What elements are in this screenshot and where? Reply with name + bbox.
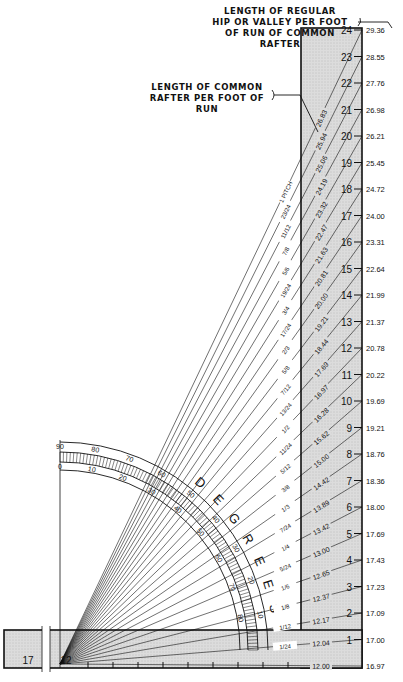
rise-label: 12 (341, 343, 353, 354)
hip-valley-value: 22.64 (366, 265, 385, 274)
hip-valley-callout: LENGTH OF REGULAR HIP OR VALLEY PER FOOT… (205, 6, 355, 50)
pitch-label: 1/24 (279, 643, 292, 650)
pitch-label: 23/24 (280, 203, 292, 220)
hip-valley-value: 19.21 (366, 424, 385, 433)
rise-label: 18 (341, 184, 353, 195)
rise-label: 10 (341, 396, 353, 407)
hip-valley-value: 21.99 (366, 291, 385, 300)
base-bar (4, 630, 362, 668)
rise-label: 17 (341, 211, 353, 222)
hip-valley-value: 26.98 (366, 106, 385, 115)
hip-valley-value: 28.55 (366, 53, 385, 62)
rise-label: 19 (341, 158, 353, 169)
hip-valley-value: 18.36 (366, 477, 385, 486)
rise-label: 3 (346, 582, 352, 593)
hip-valley-values: 29.3628.5527.7626.9826.2125.4524.7224.00… (366, 26, 385, 671)
protractor-inner-tick: 20 (118, 473, 128, 482)
hip-valley-value: 23.31 (366, 238, 385, 247)
protractor-outer-tick: 90 (56, 443, 64, 450)
hip-valley-value: 27.76 (366, 79, 385, 88)
hip-valley-value: 24.72 (366, 185, 385, 194)
rise-label: 22 (341, 78, 353, 89)
rise-label: 13 (341, 317, 353, 328)
hip-valley-value: 29.36 (366, 26, 385, 35)
hip-valley-value: 18.00 (366, 503, 385, 512)
rise-label: 15 (341, 264, 353, 275)
hip-valley-value: 24.00 (366, 212, 385, 221)
hip-valley-value: 25.45 (366, 159, 385, 168)
common-rafter-callout-line: RAFTER PER FOOT OF RUN (142, 93, 272, 115)
hip-valley-value: 17.00 (366, 636, 385, 645)
protractor-outer-tick: 80 (91, 445, 100, 453)
rise-label: 20 (341, 131, 353, 142)
rise-label: 9 (346, 423, 352, 434)
hip-valley-value: 18.76 (366, 450, 385, 459)
base-label: 12 (60, 655, 72, 666)
roof-framing-diagram: 90807060504030201001020304050607080DEGRE… (0, 0, 403, 682)
base-label: 17 (22, 655, 34, 666)
protractor-outer-tick: 70 (125, 454, 135, 463)
rise-label: 2 (346, 608, 352, 619)
degrees-letter: E (251, 554, 268, 568)
rise-label: 14 (341, 290, 353, 301)
hip-valley-value: 16.97 (366, 662, 385, 671)
common-rafter-callout: LENGTH OF COMMON RAFTER PER FOOT OF RUN (142, 82, 272, 115)
hip-valley-value: 17.69 (366, 530, 385, 539)
protractor-outer-tick: 10 (256, 610, 264, 619)
rise-label: 16 (341, 237, 353, 248)
hip-valley-value: 17.43 (366, 556, 385, 565)
common-rafter-callout-line: LENGTH OF COMMON (142, 82, 272, 93)
protractor-inner-tick: 80 (237, 614, 245, 623)
common-rafter-value: 12.04 (312, 639, 330, 647)
rise-label: 1 (346, 635, 352, 646)
pitch-fraction-labels: 1 PITCH23/2411/127/85/619/243/417/242/35… (272, 179, 297, 651)
degrees-letter: G (225, 510, 243, 527)
hip-valley-callout-line: HIP OR VALLEY PER FOOT (205, 17, 355, 28)
common-rafter-value: 12.00 (312, 663, 330, 670)
rise-label: 8 (346, 449, 352, 460)
degrees-letter: E (210, 491, 227, 508)
hip-valley-value: 20.78 (366, 344, 385, 353)
hip-valley-value: 17.23 (366, 583, 385, 592)
hip-valley-value: 17.09 (366, 609, 385, 618)
rise-label: 4 (346, 555, 352, 566)
protractor-inner-tick: 0 (58, 463, 62, 470)
hip-valley-value: 19.69 (366, 397, 385, 406)
protractor-inner-tick: 50 (195, 527, 205, 538)
hip-valley-callout-line: LENGTH OF REGULAR (205, 6, 355, 17)
rise-label: 6 (346, 502, 352, 513)
protractor-inner-tick: 40 (173, 504, 184, 514)
hip-valley-value: 21.37 (366, 318, 385, 327)
hip-valley-callout-line: OF RUN OF COMMON RAFTER (205, 28, 355, 50)
rise-label: 21 (341, 105, 353, 116)
protractor-outer-tick: 20 (247, 576, 256, 586)
degrees-letter: R (239, 531, 257, 547)
rise-label: 11 (342, 370, 353, 381)
rise-label: 7 (346, 476, 352, 487)
rise-label: 5 (346, 529, 352, 540)
hip-valley-value: 26.21 (366, 132, 385, 141)
hip-valley-value: 20.22 (366, 371, 385, 380)
rise-label: 23 (341, 52, 353, 63)
protractor-inner-tick: 10 (87, 465, 96, 473)
